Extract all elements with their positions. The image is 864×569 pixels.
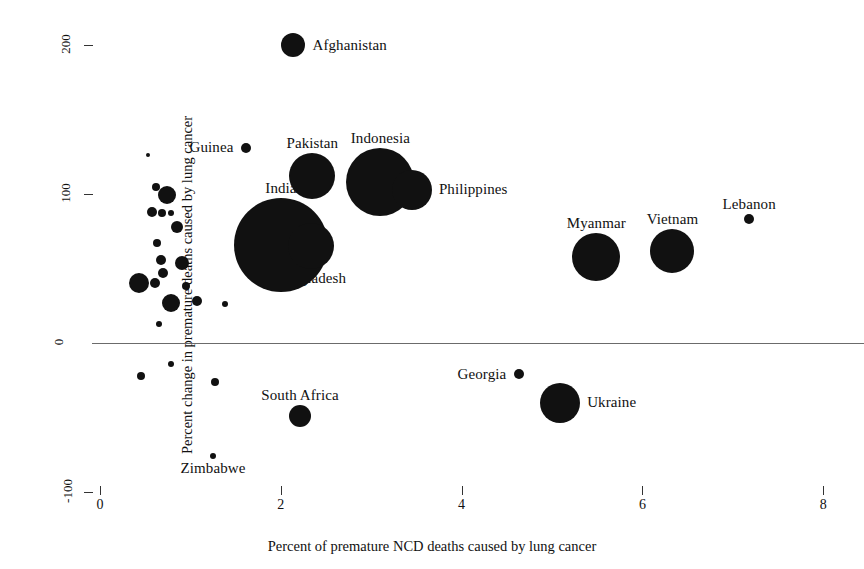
bubble-unlabeled bbox=[211, 378, 219, 386]
plot-area: -100010020002468AfghanistanGuineaPakista… bbox=[0, 0, 864, 569]
bubble-unlabeled bbox=[147, 207, 157, 217]
bubble-ukraine bbox=[540, 383, 580, 423]
bubble-guinea bbox=[241, 143, 251, 153]
bubble-unlabeled bbox=[192, 296, 202, 306]
bubble-unlabeled bbox=[129, 273, 149, 293]
y-axis-tick-label: -100 bbox=[56, 483, 80, 499]
bubble-unlabeled bbox=[137, 372, 145, 380]
y-axis-tick bbox=[84, 194, 93, 195]
x-axis-tick bbox=[823, 486, 824, 495]
bubble-unlabeled bbox=[168, 210, 174, 216]
point-label-india: India bbox=[265, 180, 296, 197]
x-axis-tick bbox=[462, 486, 463, 495]
bubble-unlabeled bbox=[156, 321, 162, 327]
y-axis-tick-label: 200 bbox=[56, 36, 76, 52]
bubble-unlabeled bbox=[153, 239, 161, 247]
y-axis-tick-label: 0 bbox=[56, 334, 63, 350]
y-axis-tick bbox=[84, 45, 93, 46]
x-axis-tick-label: 0 bbox=[97, 497, 104, 513]
bubble-chart-figure: Percent change in premature deaths cause… bbox=[0, 0, 864, 569]
point-label-georgia: Georgia bbox=[458, 366, 507, 383]
bubble-unlabeled bbox=[158, 186, 176, 204]
bubble-vietnam bbox=[650, 229, 694, 273]
bubble-georgia bbox=[514, 369, 524, 379]
bubble-philippines bbox=[392, 170, 432, 210]
bubble-unlabeled bbox=[158, 268, 168, 278]
bubble-myanmar bbox=[572, 233, 620, 281]
x-axis-tick-label: 2 bbox=[277, 497, 284, 513]
point-label-afghanistan: Afghanistan bbox=[312, 37, 386, 54]
bubble-unlabeled bbox=[222, 301, 228, 307]
point-label-vietnam: Vietnam bbox=[647, 211, 698, 228]
bubble-unlabeled bbox=[158, 209, 166, 217]
point-label-ukraine: Ukraine bbox=[587, 394, 636, 411]
point-label-guinea: Guinea bbox=[190, 139, 234, 156]
y-axis-tick-label: 100 bbox=[56, 185, 76, 201]
bubble-unlabeled bbox=[171, 221, 183, 233]
bubble-unlabeled bbox=[182, 282, 190, 290]
x-axis-tick bbox=[642, 486, 643, 495]
x-axis-tick bbox=[100, 486, 101, 495]
bubble-zimbabwe bbox=[210, 453, 216, 459]
point-label-myanmar: Myanmar bbox=[567, 215, 626, 232]
x-axis-tick-label: 6 bbox=[639, 497, 646, 513]
point-label-philippines: Philippines bbox=[439, 181, 508, 198]
bubble-unlabeled bbox=[162, 294, 180, 312]
x-axis-tick-label: 4 bbox=[458, 497, 465, 513]
bubble-afghanistan bbox=[281, 33, 305, 57]
bubble-unlabeled bbox=[150, 278, 160, 288]
point-label-pakistan: Pakistan bbox=[286, 135, 338, 152]
point-label-indonesia: Indonesia bbox=[351, 130, 410, 147]
point-label-zimbabwe: Zimbabwe bbox=[181, 460, 246, 477]
point-label-lebanon: Lebanon bbox=[723, 196, 776, 213]
zero-reference-line bbox=[92, 343, 864, 344]
bubble-unlabeled bbox=[146, 153, 150, 157]
bubble-unlabeled bbox=[156, 255, 166, 265]
bubble-unlabeled bbox=[168, 361, 174, 367]
y-axis-tick bbox=[84, 492, 93, 493]
point-label-south-africa: South Africa bbox=[261, 387, 338, 404]
bubble-bangladesh bbox=[288, 223, 334, 269]
bubble-south-africa bbox=[289, 405, 311, 427]
x-axis-tick-label: 8 bbox=[820, 497, 827, 513]
point-label-bangladesh: Bangladesh bbox=[275, 270, 346, 287]
bubble-unlabeled bbox=[175, 256, 189, 270]
bubble-lebanon bbox=[744, 214, 754, 224]
x-axis-tick bbox=[281, 486, 282, 495]
